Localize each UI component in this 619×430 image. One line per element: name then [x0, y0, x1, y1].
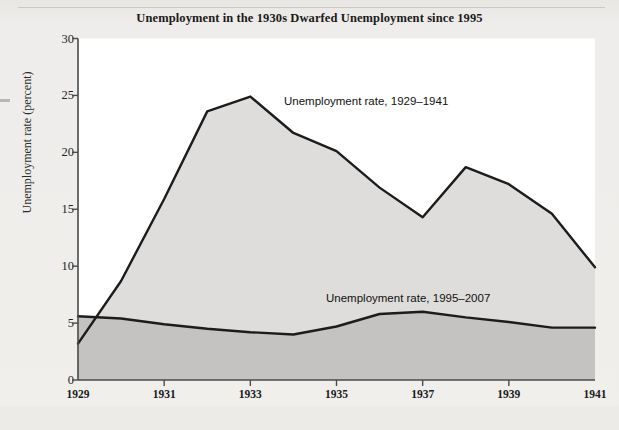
- series-annotation-lower: Unemployment rate, 1995–2007: [326, 292, 490, 304]
- x-tick-label-top: 1941: [584, 388, 607, 400]
- chart-canvas: [0, 0, 619, 430]
- x-tick-label-top: 1933: [239, 388, 262, 400]
- x-tick-label-top: 1937: [411, 388, 434, 400]
- series-annotation-upper: Unemployment rate, 1929–1941: [284, 95, 448, 107]
- x-tick-label-top: 1931: [153, 388, 176, 400]
- plot-area: Unemployment rate (percent) 051015202530…: [0, 0, 619, 430]
- x-tick-label-top: 1939: [497, 388, 520, 400]
- bottom-margin: [0, 406, 619, 430]
- x-tick-label-top: 1935: [325, 388, 348, 400]
- x-tick-label-top: 1929: [67, 388, 90, 400]
- chart-figure: Unemployment in the 1930s Dwarfed Unempl…: [0, 0, 619, 430]
